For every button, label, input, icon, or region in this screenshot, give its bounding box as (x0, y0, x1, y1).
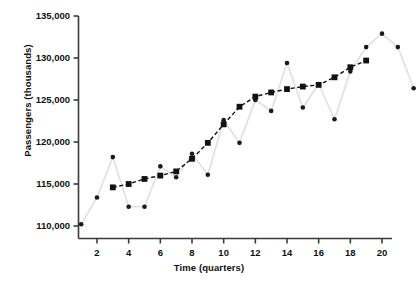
data-point-square (316, 82, 322, 88)
x-tick-label: 16 (304, 247, 334, 258)
y-tick-label: 110,000 (10, 220, 70, 231)
data-point-square (221, 121, 227, 127)
y-tick-label: 115,000 (10, 178, 70, 189)
y-tick-label: 135,000 (10, 10, 70, 21)
x-tick-label: 2 (82, 247, 112, 258)
series-line-smoothed (113, 61, 366, 188)
data-point-circle (364, 45, 369, 50)
x-tick-label: 4 (114, 247, 144, 258)
data-point-circle (332, 117, 337, 122)
data-point-circle (79, 222, 84, 227)
data-point-circle (237, 141, 242, 146)
data-point-circle (269, 109, 274, 114)
data-point-circle (190, 151, 195, 156)
data-point-circle (174, 175, 179, 180)
data-point-square (157, 173, 163, 179)
data-point-circle (206, 172, 211, 177)
data-point-square (300, 84, 306, 90)
x-tick-label: 8 (177, 247, 207, 258)
data-point-circle (411, 86, 416, 91)
x-tick-label: 14 (272, 247, 302, 258)
x-tick-label: 20 (367, 247, 397, 258)
data-point-square (142, 176, 148, 182)
data-point-square (252, 94, 258, 100)
data-point-square (126, 181, 132, 187)
data-point-square (363, 58, 369, 64)
data-point-square (205, 140, 211, 146)
y-tick-label: 125,000 (10, 94, 70, 105)
data-point-circle (158, 164, 163, 169)
data-point-square (268, 90, 274, 96)
data-point-square (332, 74, 338, 80)
data-point-circle (126, 204, 131, 209)
data-point-circle (285, 61, 290, 66)
data-point-circle (396, 45, 401, 50)
series-smoothed (110, 58, 369, 191)
data-point-square (110, 184, 116, 190)
data-point-square (237, 104, 243, 110)
passenger-time-series-chart: Passengers (thousands) Time (quarters) 1… (0, 0, 418, 286)
x-tick-label: 10 (209, 247, 239, 258)
data-point-circle (95, 195, 100, 200)
data-point-square (189, 156, 195, 162)
x-axis-label: Time (quarters) (0, 262, 418, 273)
data-point-square (173, 169, 179, 175)
data-point-circle (142, 204, 147, 209)
y-tick-label: 130,000 (10, 52, 70, 63)
data-point-square (347, 64, 353, 70)
x-tick-label: 18 (335, 247, 365, 258)
data-point-square (284, 86, 290, 92)
data-point-circle (301, 105, 306, 110)
y-tick-label: 120,000 (10, 136, 70, 147)
data-point-circle (380, 31, 385, 36)
x-tick-label: 12 (240, 247, 270, 258)
data-point-circle (111, 155, 116, 160)
x-tick-label: 6 (145, 247, 175, 258)
